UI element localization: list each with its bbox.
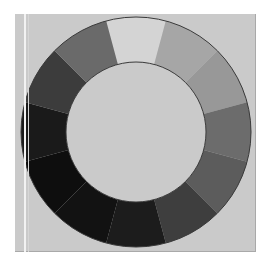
value-wheel [0,0,270,262]
inner-disc [66,62,206,202]
edge-highlight-stripe [24,14,26,252]
edge-faint-stripe [28,14,29,252]
